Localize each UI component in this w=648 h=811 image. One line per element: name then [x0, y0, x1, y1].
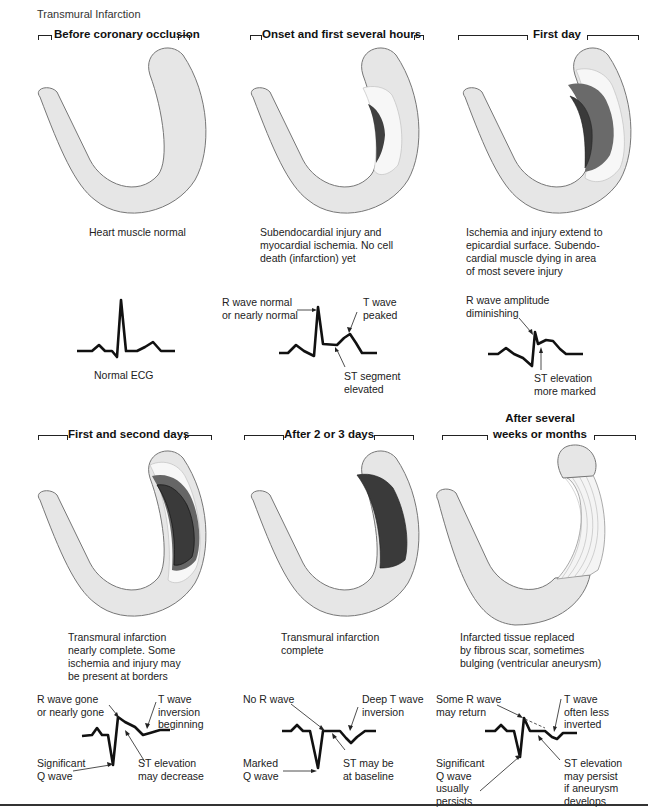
stage-3-bracket-right — [587, 35, 639, 42]
aneurysm-bulge — [558, 445, 596, 478]
heart-muscle — [38, 48, 206, 213]
stage-5-bracket-right — [374, 435, 414, 442]
bottom-rule — [0, 804, 648, 806]
st-elevation-decrease-label: ST elevation may decrease — [138, 757, 204, 782]
heart-muscle — [437, 489, 590, 625]
stage-4-title: First and second days — [68, 428, 184, 440]
stage-6-title-line-2: weeks or months — [488, 428, 592, 440]
ecg-stage3-trace — [488, 332, 583, 366]
stage-2-title: Onset and first several hours — [262, 28, 412, 40]
r-wave-normal-label: R wave normal or nearly normal — [222, 296, 298, 321]
q-wave-arrow — [480, 757, 519, 791]
significant-q-wave-label: Significant Q wave — [37, 757, 85, 782]
q-wave-persists-label: Significant Q wave usually persists — [436, 757, 484, 807]
deep-t-wave-inversion-label: Deep T wave inversion — [362, 693, 423, 718]
r-wave-return-label: Some R wave may return — [436, 693, 501, 718]
st-arrow — [334, 736, 345, 750]
stage-2-caption: Subendocardial injury and myocardial isc… — [260, 226, 393, 265]
ecg-normal-caption: Normal ECG — [94, 369, 154, 382]
r-wave-arrow — [519, 318, 531, 332]
stage-5-bracket — [244, 435, 284, 442]
t-wave-less-inverted-label: T wave often less inverted — [564, 693, 609, 731]
st-elevation-persist-label: ST elevation may persist if aneurysm dev… — [564, 757, 622, 807]
stage-6-bracket — [442, 435, 488, 442]
heart-normal-diagram — [0, 0, 648, 811]
stage-6-caption: Infarcted tissue replaced by fibrous sca… — [460, 631, 601, 670]
stage-4-bracket-right — [185, 435, 212, 442]
stage-2-bracket — [250, 35, 262, 42]
stage-3-caption: Ischemia and injury extend to epicardial… — [466, 226, 603, 278]
no-r-wave-label: No R wave — [243, 693, 294, 706]
r-wave-diminishing-label: R wave amplitude diminishing — [466, 294, 549, 319]
stage-5-title: After 2 or 3 days — [284, 428, 372, 440]
t-wave-peaked-label: T wave peaked — [363, 296, 397, 321]
t-wave-arrow — [555, 699, 561, 728]
marked-q-wave-label: Marked Q wave — [243, 757, 279, 782]
t-wave-arrow — [350, 312, 357, 330]
stage-6-bracket-right — [594, 435, 636, 442]
stage-5-caption: Transmural infarction complete — [281, 631, 379, 657]
st-arrow — [540, 738, 560, 760]
stage-3-title: First day — [528, 28, 586, 40]
st-elevation-marked-label: ST elevation more marked — [534, 372, 596, 397]
stage-3-bracket — [458, 35, 528, 42]
st-segment-elevated-label: ST segment elevated — [344, 370, 400, 395]
stage-1-caption: Heart muscle normal — [89, 226, 186, 239]
st-baseline-label: ST may be at baseline — [343, 757, 394, 782]
st-arrow — [337, 350, 345, 367]
stage-6-title-line-1: After several — [500, 412, 580, 424]
t-wave-arrow — [148, 702, 156, 725]
stage-2-bracket-right — [414, 35, 424, 42]
t-wave-arrow — [351, 707, 358, 727]
t-wave-inversion-beginning-label: T wave inversion beginning — [158, 693, 204, 731]
stage-4-bracket — [38, 435, 68, 442]
stage-4-caption: Transmural infarction nearly complete. S… — [68, 631, 181, 683]
ecg-normal-trace — [77, 300, 175, 357]
r-wave-gone-label: R wave gone or nearly gone — [37, 693, 104, 718]
